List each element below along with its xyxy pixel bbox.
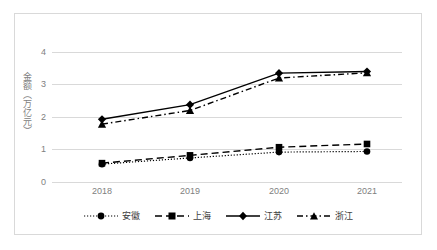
datapoint-浙江-2020 xyxy=(275,74,283,82)
series-line-江苏 xyxy=(102,72,367,120)
datapoint-安徽-2018 xyxy=(99,161,106,168)
gridline-2 xyxy=(52,117,402,118)
legend-label-zhejiang: 浙江 xyxy=(335,211,353,222)
series-浙江 xyxy=(98,69,371,128)
datapoint-浙江-2019 xyxy=(186,106,194,114)
datapoint-上海-2019 xyxy=(187,152,194,159)
series-line-安徽 xyxy=(102,151,367,164)
datapoint-浙江-2021 xyxy=(363,69,371,77)
chart-legend: 安徽 上海 江苏 浙江 xyxy=(14,206,422,226)
series-line-上海 xyxy=(102,144,367,163)
legend-label-jiangsu: 江苏 xyxy=(264,211,282,222)
legend-swatch-zhejiang xyxy=(296,210,332,222)
datapoint-安徽-2019 xyxy=(187,155,194,162)
x-tick-label-2018: 2018 xyxy=(80,186,124,196)
datapoint-上海-2018 xyxy=(99,160,106,167)
legend-label-shanghai: 上海 xyxy=(193,211,211,222)
legend-label-anhui: 安徽 xyxy=(122,211,140,222)
series-上海 xyxy=(99,141,371,167)
x-tick-label-2020: 2020 xyxy=(257,186,301,196)
y-tick-label-0: 0 xyxy=(26,177,46,187)
legend-item-anhui[interactable]: 安徽 xyxy=(83,210,140,222)
gridline-0 xyxy=(52,182,402,183)
legend-item-zhejiang[interactable]: 浙江 xyxy=(296,210,353,222)
legend-item-shanghai[interactable]: 上海 xyxy=(154,210,211,222)
gridline-4 xyxy=(52,52,402,53)
x-tick-label-2019: 2019 xyxy=(168,186,212,196)
gridline-1 xyxy=(52,149,402,150)
legend-swatch-shanghai xyxy=(154,210,190,222)
y-tick-label-1: 1 xyxy=(26,144,46,154)
x-tick-label-2021: 2021 xyxy=(345,186,389,196)
series-江苏 xyxy=(98,67,371,123)
legend-item-jiangsu[interactable]: 江苏 xyxy=(225,210,282,222)
series-安徽 xyxy=(99,148,371,167)
datapoint-江苏-2019 xyxy=(186,101,194,109)
datapoint-上海-2021 xyxy=(364,141,371,148)
datapoint-江苏-2021 xyxy=(363,67,371,75)
legend-swatch-jiangsu xyxy=(225,210,261,222)
datapoint-江苏-2020 xyxy=(275,69,283,77)
y-tick-label-4: 4 xyxy=(26,47,46,57)
legend-swatch-anhui xyxy=(83,210,119,222)
gridline-3 xyxy=(52,84,402,85)
datapoint-浙江-2018 xyxy=(98,120,106,128)
y-axis-title: 金额（万亿元） xyxy=(19,72,33,135)
